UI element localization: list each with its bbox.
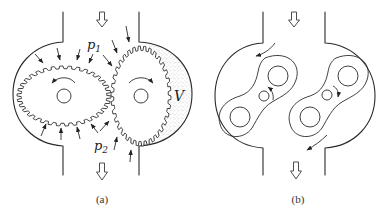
- panel-b-lobe-pump: (b): [215, 12, 375, 206]
- right-lobe-rotor: [289, 55, 368, 136]
- outlet-flow-arrow-icon: [97, 163, 108, 180]
- panel-b-caption: (b): [292, 193, 305, 206]
- left-rotor-shaft: [259, 91, 269, 101]
- panel-a-gear-pump: p1 p2 V (a): [13, 12, 192, 206]
- right-rotor-rotation-arrow-icon: [333, 86, 338, 97]
- right-rotor-lobe-hole-lower: [300, 107, 320, 127]
- lobe-casing-left-wall: [215, 12, 263, 175]
- inlet-pressure-arrows: [35, 26, 129, 66]
- lobe-inlet-flow-arrow-icon: [289, 12, 300, 27]
- outlet-pressure-label: p2: [94, 138, 108, 155]
- left-lobe-rotor: [219, 55, 297, 136]
- left-gear: [17, 66, 111, 126]
- right-rotor-shaft: [322, 90, 332, 100]
- outlet-flow-path-arrow-icon: [307, 135, 327, 150]
- pump-diagram-figure: p1 p2 V (a) (b): [0, 0, 387, 215]
- left-rotor-lobe-hole-lower: [230, 107, 250, 127]
- right-rotor-lobe-hole-upper: [338, 66, 358, 86]
- inlet-flow-arrow-icon: [97, 12, 108, 27]
- left-rotor-lobe-hole-upper: [268, 66, 288, 86]
- panel-a-caption: (a): [96, 193, 109, 206]
- lobe-casing-right-wall: [325, 12, 375, 175]
- inlet-pressure-label: p1: [87, 37, 101, 54]
- lobe-outlet-flow-arrow-icon: [291, 162, 302, 179]
- inlet-flow-path-arrow-icon: [256, 43, 275, 56]
